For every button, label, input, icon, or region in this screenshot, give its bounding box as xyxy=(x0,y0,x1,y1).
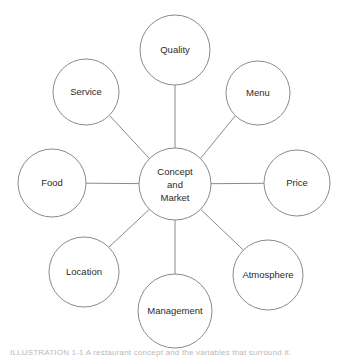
node-concept-and-market-label-line1: Concept xyxy=(157,166,193,177)
node-quality-label: Quality xyxy=(160,44,190,55)
node-service-label: Service xyxy=(70,86,102,97)
node-price-label: Price xyxy=(286,177,308,188)
node-location[interactable]: Location xyxy=(49,237,119,307)
node-food[interactable]: Food xyxy=(18,149,86,217)
node-concept-and-market[interactable]: Concept and Market xyxy=(139,148,211,220)
node-management[interactable]: Management xyxy=(138,274,212,348)
node-service[interactable]: Service xyxy=(53,59,119,125)
spoke-center-to-service xyxy=(110,116,150,159)
node-food-label: Food xyxy=(41,177,63,188)
figure-caption: ILLUSTRATION 1-1 A restaurant concept an… xyxy=(10,348,344,358)
node-atmosphere-label: Atmosphere xyxy=(242,269,293,280)
node-price[interactable]: Price xyxy=(264,150,330,216)
node-concept-and-market-label-line2: and xyxy=(167,179,183,190)
node-concept-and-market-label-line3: Market xyxy=(160,192,189,203)
node-quality[interactable]: Quality xyxy=(140,15,210,85)
node-menu-label: Menu xyxy=(246,87,270,98)
spoke-center-to-menu xyxy=(201,116,236,159)
spoke-center-to-atmosphere xyxy=(201,209,244,250)
spoke-center-to-location xyxy=(109,209,150,247)
node-atmosphere[interactable]: Atmosphere xyxy=(233,240,303,310)
node-menu[interactable]: Menu xyxy=(226,61,290,125)
node-location-label: Location xyxy=(66,266,102,277)
node-management-label: Management xyxy=(147,305,203,316)
